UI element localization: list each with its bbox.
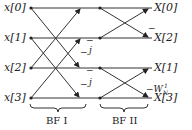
minus-mark: − (86, 66, 94, 75)
minus-mark: − (80, 80, 88, 89)
output-label-2: X[1] (154, 62, 177, 73)
stage-2-label: BF II (112, 116, 137, 126)
twiddle-w-sub: N (163, 89, 168, 96)
j-mark: j (89, 78, 92, 87)
minus-mark: − (80, 48, 88, 57)
output-label-0: X[0] (154, 2, 177, 13)
stage-1-label: BF I (46, 116, 67, 126)
input-label-1: x[1] (4, 32, 26, 43)
twiddle-w-text: −W (146, 84, 163, 94)
minus-mark: − (86, 36, 94, 45)
j-mark: j (89, 46, 92, 55)
input-label-2: x[2] (4, 62, 26, 73)
twiddle-w-label: −WN1 (146, 83, 172, 96)
input-label-3: x[3] (4, 92, 26, 103)
input-label-0: x[0] (4, 2, 26, 13)
minus-mark: − (148, 24, 156, 33)
output-label-1: X[2] (154, 32, 177, 43)
twiddle-w-sup: 1 (164, 82, 168, 89)
